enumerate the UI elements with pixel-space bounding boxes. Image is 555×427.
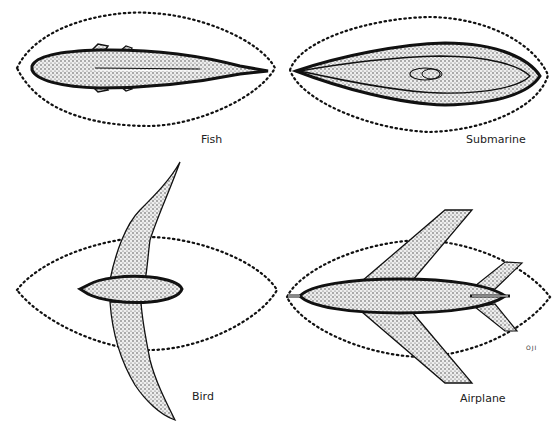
airplane-wing-bottom bbox=[362, 312, 472, 383]
fish-label: Fish bbox=[201, 133, 222, 146]
airplane-tail-top bbox=[475, 262, 522, 289]
submarine-figure bbox=[290, 17, 548, 132]
corner-code: OJI bbox=[526, 344, 537, 351]
bird-label: Bird bbox=[192, 390, 214, 403]
submarine-hull bbox=[296, 43, 540, 105]
airplane-figure bbox=[287, 210, 550, 383]
bird-wing-upper bbox=[110, 162, 180, 280]
airplane-tail-bottom bbox=[475, 304, 517, 331]
airplane-label: Airplane bbox=[460, 392, 506, 405]
bird-wing-lower bbox=[110, 302, 175, 420]
submarine-label: Submarine bbox=[466, 133, 526, 146]
bird-figure bbox=[17, 162, 277, 420]
bird-body bbox=[80, 276, 182, 302]
streamline-diagram bbox=[0, 0, 555, 427]
airplane-wing-top bbox=[362, 210, 472, 281]
fish-figure bbox=[17, 13, 275, 126]
